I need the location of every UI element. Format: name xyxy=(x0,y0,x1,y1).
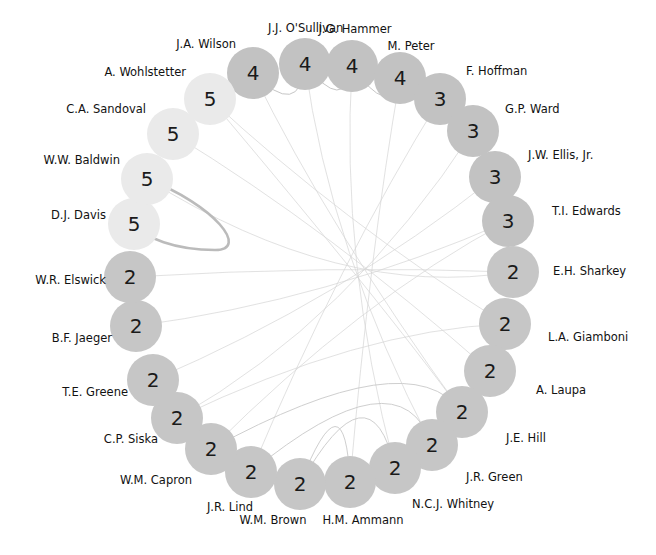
graph-node[interactable]: 2 xyxy=(110,300,162,352)
node-label: D.J. Davis xyxy=(51,210,106,222)
graph-node[interactable]: 2 xyxy=(324,456,376,508)
node-label: E.H. Sharkey xyxy=(553,266,626,278)
node-label: C.A. Sandoval xyxy=(66,104,146,116)
graph-node[interactable]: 2 xyxy=(274,458,326,510)
node-label: M. Peter xyxy=(387,41,434,53)
node-label: J.G. Hammer xyxy=(318,24,391,36)
node-label: W.R. Elswick xyxy=(35,275,106,287)
node-label: W.M. Capron xyxy=(120,475,192,487)
node-label: A. Wohlstetter xyxy=(104,67,186,79)
graph-node[interactable]: 5 xyxy=(121,153,173,205)
node-label: L.A. Giamboni xyxy=(548,332,628,344)
node-label: G.P. Ward xyxy=(505,104,560,116)
graph-node[interactable]: 5 xyxy=(108,198,160,250)
graph-node[interactable]: 5 xyxy=(184,73,236,125)
node-label: J.R. Green xyxy=(466,472,523,484)
graph-node[interactable]: 2 xyxy=(479,298,531,350)
node-label: J.R. Lind xyxy=(207,502,253,514)
node-label: J.W. Ellis, Jr. xyxy=(528,150,593,162)
node-label: T.E. Greene xyxy=(62,387,128,399)
graph-node[interactable]: 3 xyxy=(447,105,499,157)
node-label: H.M. Ammann xyxy=(322,515,403,527)
graph-node[interactable]: 2 xyxy=(369,442,421,494)
node-label: C.P. Siska xyxy=(104,434,158,446)
node-label: J.E. Hill xyxy=(506,433,546,445)
node-label: J.A. Wilson xyxy=(176,39,236,51)
node-label: F. Hoffman xyxy=(466,66,527,78)
node-label: A. Laupa xyxy=(536,385,586,397)
graph-node[interactable]: 2 xyxy=(487,246,539,298)
graph-node[interactable]: 4 xyxy=(326,40,378,92)
graph-node[interactable]: 2 xyxy=(104,251,156,303)
graph-node[interactable]: 2 xyxy=(127,354,179,406)
node-label: T.I. Edwards xyxy=(552,206,621,218)
node-label: W.M. Brown xyxy=(239,515,306,527)
node-label: N.C.J. Whitney xyxy=(412,499,494,511)
graph-node[interactable]: 3 xyxy=(482,195,534,247)
node-label: W.W. Baldwin xyxy=(44,155,120,167)
circular-network-diagram: 44443333222222222222225555 J.A. WilsonJ.… xyxy=(0,0,656,555)
graph-node[interactable]: 4 xyxy=(279,38,331,90)
node-label: B.F. Jaeger xyxy=(52,333,112,345)
